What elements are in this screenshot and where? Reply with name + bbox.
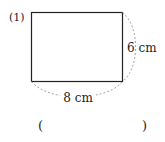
answer-paren-close: ): [142, 118, 147, 133]
rectangle-diagram: (1) 6 cm 8 cm ( ): [0, 0, 165, 142]
width-label: 8 cm: [63, 91, 93, 105]
height-label: 6 cm: [127, 41, 157, 55]
problem-number: (1): [9, 11, 25, 24]
rectangle: [32, 13, 123, 82]
answer-paren-open: (: [38, 118, 43, 133]
answer-blank[interactable]: [48, 115, 138, 133]
